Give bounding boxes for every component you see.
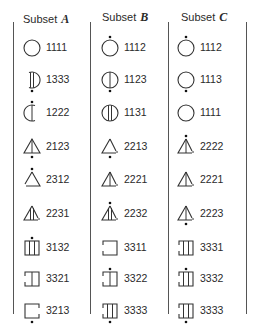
stimulus-item: 1111 bbox=[176, 98, 246, 128]
stimulus-code: 3311 bbox=[124, 241, 147, 253]
stimulus-item: 3322 bbox=[100, 264, 170, 294]
stimulus-item: 3132 bbox=[22, 233, 92, 263]
stimulus-code: 3322 bbox=[124, 272, 147, 284]
stimulus-item: 2223 bbox=[176, 199, 246, 229]
stimulus-code: 3132 bbox=[46, 241, 69, 253]
stimulus-code: 3333 bbox=[124, 304, 147, 316]
stimulus-item: 2221 bbox=[100, 165, 170, 195]
stimulus-code: 1113 bbox=[200, 73, 222, 85]
stimulus-code: 1123 bbox=[124, 73, 147, 85]
stimulus-code: 1112 bbox=[124, 41, 146, 53]
header-letter: B bbox=[140, 10, 148, 24]
stimulus-code: 1131 bbox=[124, 106, 147, 118]
stimulus-item: 1111 bbox=[22, 33, 92, 63]
stimulus-code: 3331 bbox=[200, 241, 223, 253]
stimulus-code: 1333 bbox=[46, 73, 69, 85]
stimulus-item: 2231 bbox=[22, 199, 92, 229]
divider-line bbox=[246, 22, 247, 314]
stimulus-item: 1113 bbox=[176, 65, 246, 95]
stimulus-item: 3332 bbox=[176, 264, 246, 294]
subset-a-header: SubsetA bbox=[23, 12, 69, 27]
header-label: Subset bbox=[23, 13, 57, 25]
stimulus-item: 3331 bbox=[176, 233, 246, 263]
stimulus-item: 2221 bbox=[176, 165, 246, 195]
header-letter: C bbox=[219, 10, 227, 24]
stimulus-code: 3333 bbox=[200, 304, 223, 316]
stimulus-item: 3321 bbox=[22, 264, 92, 294]
stimulus-item: 1112 bbox=[176, 33, 246, 63]
stimulus-code: 2221 bbox=[200, 173, 223, 185]
stimulus-code: 1112 bbox=[200, 41, 222, 53]
stimulus-code: 2221 bbox=[124, 173, 147, 185]
subset-b-header: SubsetB bbox=[102, 10, 148, 25]
stimulus-item: 2213 bbox=[100, 132, 170, 162]
stimulus-code: 2213 bbox=[124, 140, 147, 152]
stimulus-item: 3311 bbox=[100, 233, 170, 263]
stimulus-item: 3333 bbox=[176, 296, 246, 326]
stimulus-code: 2231 bbox=[46, 207, 69, 219]
stimulus-code: 2312 bbox=[46, 173, 69, 185]
stimulus-item: 1123 bbox=[100, 65, 170, 95]
header-letter: A bbox=[61, 12, 69, 26]
stimulus-item: 1222 bbox=[22, 98, 92, 128]
stimulus-code: 2123 bbox=[46, 140, 69, 152]
stimulus-item: 1131 bbox=[100, 98, 170, 128]
stimulus-code: 3332 bbox=[200, 272, 223, 284]
stimulus-item: 3213 bbox=[22, 296, 92, 326]
stimulus-code: 1222 bbox=[46, 106, 69, 118]
stimulus-item: 2123 bbox=[22, 132, 92, 162]
stimulus-item: 2232 bbox=[100, 199, 170, 229]
stimulus-code: 1111 bbox=[200, 106, 221, 118]
stimulus-code: 3213 bbox=[46, 304, 69, 316]
stimulus-item: 2312 bbox=[22, 165, 92, 195]
header-label: Subset bbox=[181, 11, 215, 23]
stimulus-code: 2223 bbox=[200, 207, 223, 219]
stimulus-code: 2232 bbox=[124, 207, 147, 219]
stimulus-item: 2222 bbox=[176, 132, 246, 162]
stimulus-item: 1112 bbox=[100, 33, 170, 63]
subset-c-header: SubsetC bbox=[181, 10, 227, 25]
stimulus-item: 1333 bbox=[22, 65, 92, 95]
stimulus-code: 1111 bbox=[46, 41, 67, 53]
stimulus-item: 3333 bbox=[100, 296, 170, 326]
divider-line bbox=[13, 22, 14, 314]
stimulus-code: 3321 bbox=[46, 272, 69, 284]
header-label: Subset bbox=[102, 11, 136, 23]
stimulus-code: 2222 bbox=[200, 140, 223, 152]
